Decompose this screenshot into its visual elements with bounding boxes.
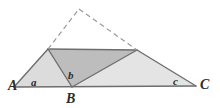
angle-c: c [173, 76, 178, 87]
angle-b: b [68, 70, 74, 81]
vertex-c: C [200, 78, 209, 92]
vertex-b: B [66, 92, 75, 106]
dashed-apex-e [79, 9, 137, 50]
triangle-svg [0, 0, 220, 108]
edge-d-e [48, 49, 137, 50]
vertex-a: A [8, 79, 17, 93]
angle-a: a [31, 77, 37, 88]
geometry-figure: ABCabc [0, 0, 220, 108]
edge-a-c [14, 86, 196, 87]
dashed-edges [48, 9, 137, 50]
dashed-d-apex [48, 9, 79, 49]
